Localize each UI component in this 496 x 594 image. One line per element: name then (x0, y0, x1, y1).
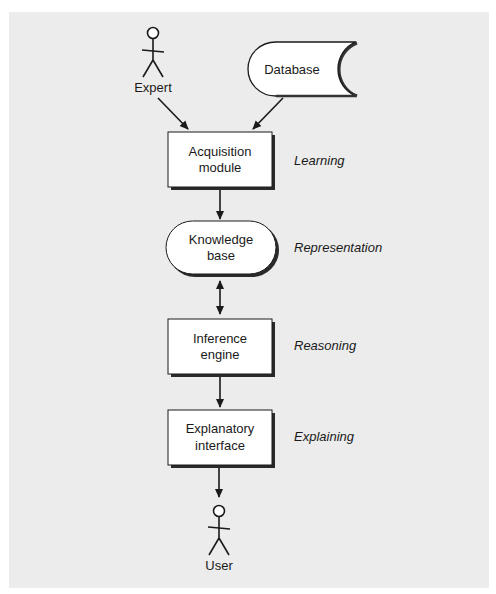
database-node: Database (248, 42, 357, 96)
inference-label-line2: engine (200, 347, 239, 362)
role-representation: Representation (294, 240, 382, 255)
role-explaining: Explaining (294, 429, 355, 444)
expert-actor: Expert (134, 28, 172, 96)
arrow-expert-to-acquisition (158, 98, 188, 129)
user-actor: User (205, 506, 233, 574)
explanatory-interface-node: Explanatory interface (168, 410, 275, 468)
expert-system-diagram: Expert Database Acquisition module Learn… (0, 0, 496, 594)
inference-label-line1: Inference (193, 331, 247, 346)
knowledge-base-node: Knowledge base (166, 221, 279, 277)
arrow-database-to-acquisition (253, 98, 283, 129)
role-learning: Learning (294, 153, 345, 168)
acquisition-label-line2: module (199, 160, 242, 175)
knowledge-label-line2: base (207, 248, 235, 263)
inference-engine-node: Inference engine (168, 319, 275, 377)
stick-figure-icon (142, 28, 164, 78)
stick-figure-icon (208, 506, 230, 556)
explanatory-label-line2: interface (195, 438, 245, 453)
acquisition-label-line1: Acquisition (189, 144, 252, 159)
acquisition-module-node: Acquisition module (168, 132, 275, 190)
knowledge-label-line1: Knowledge (189, 232, 253, 247)
expert-label: Expert (134, 80, 172, 95)
database-label: Database (264, 62, 320, 77)
explanatory-label-line1: Explanatory (186, 421, 255, 436)
user-label: User (205, 558, 233, 573)
role-reasoning: Reasoning (294, 338, 357, 353)
